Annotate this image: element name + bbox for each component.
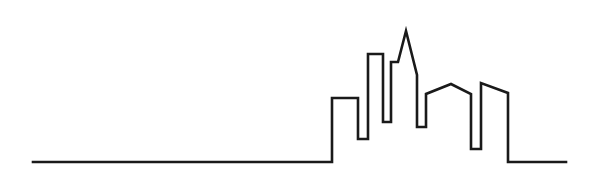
artboard: City Skyline Continuous Line Drawing: [0, 0, 609, 194]
canvas-background: [0, 0, 609, 194]
city-skyline-illustration: City Skyline Continuous Line Drawing: [0, 0, 609, 194]
